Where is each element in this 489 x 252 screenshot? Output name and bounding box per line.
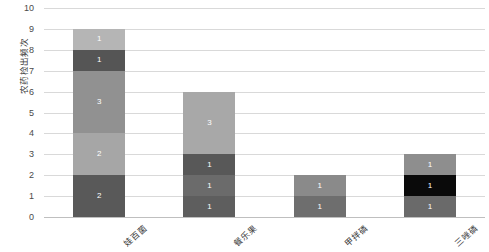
bar-segment-value-label: 1: [428, 182, 432, 190]
bar-segment-value-label: 2: [97, 150, 101, 158]
bar-segment[interactable]: 1: [183, 154, 235, 175]
bar-segment[interactable]: 1: [404, 175, 456, 196]
y-axis-tick-label: 0: [29, 212, 34, 222]
stacked-bar[interactable]: 1113: [183, 92, 235, 217]
bar-segment-value-label: 1: [428, 161, 432, 169]
y-axis-tick-label: 6: [29, 87, 34, 97]
bar-segment[interactable]: 1: [73, 50, 125, 71]
bar-segment[interactable]: 3: [73, 71, 125, 134]
plot-area: 22311111311111: [44, 8, 485, 217]
bar-segment[interactable]: 1: [404, 154, 456, 175]
y-axis-tick-label: 4: [29, 128, 34, 138]
y-axis-tick-label: 8: [29, 45, 34, 55]
y-axis-tick-label: 3: [29, 149, 34, 159]
bar-segment-value-label: 1: [207, 161, 211, 169]
bar-segment-value-label: 1: [207, 182, 211, 190]
y-axis-tick-label: 10: [24, 3, 34, 13]
y-axis-tick-label: 5: [29, 108, 34, 118]
bar-segment[interactable]: 1: [73, 29, 125, 50]
x-axis-tick-label: 甲拌磷: [341, 221, 370, 249]
bar-segment[interactable]: 1: [294, 196, 346, 217]
stacked-bar[interactable]: 11: [294, 175, 346, 217]
bar-segment-value-label: 1: [207, 203, 211, 211]
x-axis-tick-label: 餐乐果: [231, 221, 260, 249]
bar-segment[interactable]: 1: [183, 196, 235, 217]
bar-segment[interactable]: 2: [73, 133, 125, 175]
bar-series: 22311111311111: [44, 8, 485, 217]
x-axis-tick-label: 三唑磷: [451, 221, 480, 249]
stacked-bar[interactable]: 22311: [73, 29, 125, 217]
y-axis-tick-label: 9: [29, 24, 34, 34]
y-axis-tick-label: 1: [29, 191, 34, 201]
y-axis-tick-labels: 109876543210: [0, 8, 38, 217]
bar-segment[interactable]: 1: [404, 196, 456, 217]
bar-segment-value-label: 1: [317, 203, 321, 211]
bar-segment-value-label: 1: [97, 56, 101, 64]
bar-segment[interactable]: 1: [294, 175, 346, 196]
y-axis-tick-label: 7: [29, 66, 34, 76]
bar-segment-value-label: 1: [97, 35, 101, 43]
x-axis-tick-labels: 娃百菌餐乐果甲拌磷三唑磷: [44, 219, 485, 252]
bar-segment-value-label: 3: [97, 98, 101, 106]
bar-segment-value-label: 1: [428, 203, 432, 211]
x-axis-tick-label: 娃百菌: [120, 221, 149, 249]
bar-segment[interactable]: 2: [73, 175, 125, 217]
bar-segment-value-label: 1: [317, 182, 321, 190]
bar-segment[interactable]: 1: [183, 175, 235, 196]
gridline: [44, 217, 485, 218]
y-axis-tick-label: 2: [29, 170, 34, 180]
bar-segment[interactable]: 3: [183, 92, 235, 155]
stacked-bar[interactable]: 111: [404, 154, 456, 217]
chart-container: 农药检出频次 109876543210 22311111311111 娃百菌餐乐…: [0, 0, 489, 252]
bar-segment-value-label: 2: [97, 192, 101, 200]
bar-segment-value-label: 3: [207, 119, 211, 127]
